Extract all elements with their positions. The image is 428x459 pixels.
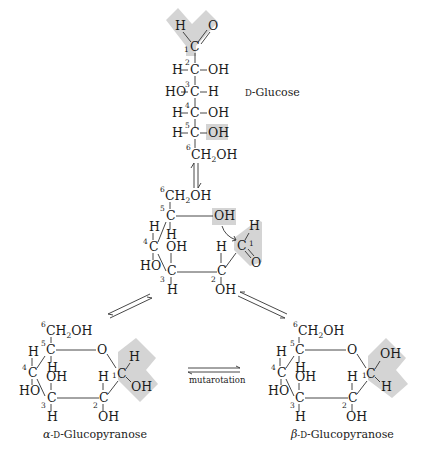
int-c4-atom: C: [149, 239, 159, 254]
beta-c1-down: H: [381, 379, 392, 394]
c4-left: H: [172, 105, 183, 120]
beta-c2-h: H: [347, 369, 358, 384]
beta-c4-atom: C: [277, 365, 287, 380]
alpha-c1-down: OH: [131, 379, 152, 394]
alpha-c1-atom: C: [117, 366, 127, 381]
int-c1-number: 1: [249, 239, 254, 248]
c2-atom: C: [190, 62, 200, 77]
alpha-c1-up: H: [129, 349, 140, 364]
beta-label: β-D-Glucopyranose: [290, 428, 394, 441]
c1-number: 1: [184, 45, 189, 54]
c5-right: OH: [208, 125, 229, 140]
beta-c1-up: OH: [380, 346, 401, 361]
c3-left: HO: [165, 84, 186, 99]
alpha-c5-atom: C: [46, 342, 56, 357]
c1-atom: C: [190, 39, 200, 54]
equilibrium-arrow-left: [108, 294, 152, 318]
mutarotation-label: mutarotation: [189, 375, 246, 385]
beta-c3-atom: C: [295, 390, 305, 405]
intermediate-structure: 6 CH2OH 5 C OH H H C 1 O H 4 C HO OH: [140, 185, 262, 297]
int-c3-atom: C: [167, 263, 177, 278]
int-c1-o: O: [251, 255, 261, 270]
c5-left: H: [172, 125, 183, 140]
c4-atom: C: [190, 105, 200, 120]
equilibrium-arrow-right: [238, 292, 287, 318]
int-c6-group: CH2OH: [165, 188, 211, 205]
beta-d-glucopyranose: 6 CH2OH 5 C O H OH 1 C H H 4 C HO OH C 3…: [268, 320, 408, 441]
alpha-c2-h: H: [98, 369, 109, 384]
c3-right: H: [208, 84, 219, 99]
int-c3-h: H: [167, 282, 178, 297]
alpha-c2-oh: OH: [98, 409, 119, 424]
int-c2-atom: C: [217, 263, 227, 278]
alpha-c4-h: H: [28, 344, 39, 359]
beta-c4-oh: HO: [268, 383, 289, 398]
c1-h: H: [175, 18, 186, 33]
int-c3-number: 3: [160, 275, 165, 284]
beta-c5-atom: C: [295, 342, 305, 357]
beta-c3-oh: OH: [295, 369, 316, 384]
alpha-label: α-D-Glucopyranose: [43, 428, 147, 441]
c2-right: OH: [208, 62, 229, 77]
c6-group: CH2OH: [191, 147, 237, 164]
alpha-c3-oh: OH: [46, 369, 67, 384]
open-chain-glucose: H O 1 C H 2 C OH HO 3 C H H 4 C OH H 5: [165, 8, 300, 164]
c1-o: O: [208, 18, 218, 33]
equilibrium-arrow-vertical: [191, 163, 201, 188]
d-glucose-label: D-Glucose: [245, 86, 300, 99]
beta-c1-atom: C: [366, 366, 376, 381]
beta-c2-atom: C: [348, 390, 358, 405]
alpha-c4-oh: HO: [19, 383, 40, 398]
int-c5-atom: C: [166, 208, 176, 223]
alpha-c2-atom: C: [99, 390, 109, 405]
alpha-c4-number: 4: [22, 363, 27, 372]
int-c3-oh: OH: [166, 239, 187, 254]
alpha-ring-o: O: [97, 342, 107, 357]
int-c4-oh: HO: [140, 258, 161, 273]
alpha-d-glucopyranose: 6 CH2OH 5 C O H H 1 C OH H 4 C HO OH C 3…: [19, 320, 158, 441]
alpha-c6-group: CH2OH: [46, 323, 92, 340]
int-c2-oh: OH: [215, 282, 236, 297]
int-c2-h: H: [216, 239, 227, 254]
mutarotation-equilibrium: mutarotation: [188, 366, 246, 385]
beta-c4-h: H: [276, 344, 287, 359]
beta-ring-o: O: [347, 342, 357, 357]
int-c5-number: 5: [160, 204, 165, 213]
int-c1-h: H: [249, 218, 260, 233]
beta-c4-number: 4: [271, 363, 276, 372]
c2-left: H: [172, 62, 183, 77]
int-c4-number: 4: [143, 237, 148, 246]
int-c4-h: H: [149, 219, 160, 234]
c4-right: OH: [208, 105, 229, 120]
beta-c2-oh: OH: [346, 409, 367, 424]
glucose-cyclization-diagram: H O 1 C H 2 C OH HO 3 C H H 4 C OH H 5: [0, 0, 428, 459]
beta-c3-h: H: [295, 409, 306, 424]
c3-atom: C: [190, 84, 200, 99]
alpha-c3-number: 3: [41, 401, 46, 410]
beta-c6-group: CH2OH: [298, 323, 344, 340]
alpha-c3-atom: C: [47, 390, 57, 405]
alpha-c3-h: H: [47, 409, 58, 424]
int-o5-oh: OH: [214, 208, 235, 223]
c5-atom: C: [190, 125, 200, 140]
int-c1-atom: C: [237, 238, 247, 253]
alpha-c4-atom: C: [28, 365, 38, 380]
